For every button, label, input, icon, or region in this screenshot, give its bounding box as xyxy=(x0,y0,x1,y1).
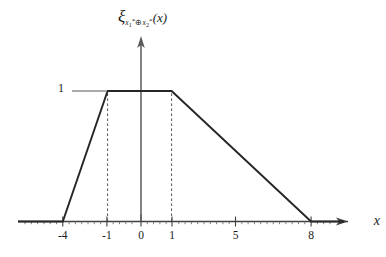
x-tick-label-neg4: -4 xyxy=(58,230,68,242)
x-tick-label-5: 5 xyxy=(233,230,239,242)
x-axis-name: x xyxy=(374,214,380,228)
y-axis-label-subscript: x1*⊕x2* xyxy=(125,18,152,27)
x-axis-major-ticks xyxy=(63,215,311,227)
y-axis-label: ξx1*⊕x2*(x) xyxy=(118,8,167,28)
membership-curve xyxy=(18,91,344,222)
fuzzy-membership-chart xyxy=(0,0,386,257)
x-tick-label-8: 8 xyxy=(308,230,314,242)
subscript-operator-icon: ⊕ xyxy=(135,18,142,27)
x-tick-label-1: 1 xyxy=(169,230,175,242)
x-tick-label-0: 0 xyxy=(138,230,144,242)
y-tick-label-1: 1 xyxy=(58,82,64,94)
x-tick-label-neg1: -1 xyxy=(102,230,112,242)
y-axis-label-argument: (x) xyxy=(153,10,167,25)
